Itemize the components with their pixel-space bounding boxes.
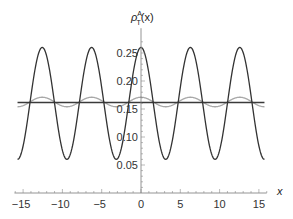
y-axis: 0.050.100.150.200.25 <box>117 28 145 193</box>
line-chart: −15−10−5051015 0.050.100.150.200.25 x ρA… <box>0 0 293 219</box>
x-axis: −15−10−5051015 <box>12 189 267 210</box>
x-axis-title: x <box>276 185 283 197</box>
y-tick-label: 0.25 <box>117 47 138 59</box>
x-tick-label: 15 <box>253 198 265 210</box>
x-tick-label: 0 <box>138 198 144 210</box>
y-tick-label: 0.10 <box>117 131 138 143</box>
x-tick-label: 5 <box>177 198 183 210</box>
y-axis-title: ρAT(x) <box>130 10 154 26</box>
x-tick-label: 10 <box>213 198 225 210</box>
y-tick-label: 0.20 <box>117 75 138 87</box>
y-tick-label: 0.15 <box>117 103 138 115</box>
x-tick-label: −5 <box>93 198 106 210</box>
y-tick-label: 0.05 <box>117 159 138 171</box>
x-tick-label: −10 <box>51 198 70 210</box>
x-tick-label: −15 <box>12 198 31 210</box>
